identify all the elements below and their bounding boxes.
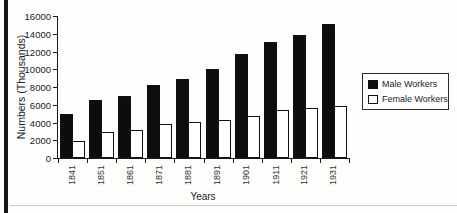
x-axis-tick-10 bbox=[349, 158, 350, 163]
bar-female-1921 bbox=[305, 108, 318, 158]
bar-group-1921 bbox=[291, 16, 320, 158]
scanned-chart-page: Numbers (Thousands) 02000400060008000100… bbox=[0, 0, 457, 213]
legend-item-female-workers: Female Workers bbox=[368, 94, 444, 104]
bar-female-1861 bbox=[130, 130, 143, 158]
bar-female-1851 bbox=[101, 132, 114, 158]
y-axis-tick-label-8000: 8000 bbox=[30, 82, 51, 93]
bar-group-1841 bbox=[58, 16, 87, 158]
x-axis-label-cell-1931: 1931 bbox=[319, 162, 348, 192]
bar-female-1901 bbox=[247, 116, 260, 158]
x-axis-label-1851: 1851 bbox=[96, 165, 106, 185]
legend-swatch-male bbox=[368, 80, 378, 89]
bar-group-1931 bbox=[320, 16, 349, 158]
x-axis-title: Years bbox=[145, 191, 261, 202]
bar-group-1851 bbox=[87, 16, 116, 158]
x-axis-label-cell-1921: 1921 bbox=[290, 162, 319, 192]
y-axis-tick-label-10000: 10000 bbox=[25, 64, 51, 75]
y-axis-tick-10000 bbox=[53, 69, 58, 70]
y-axis-tick-14000 bbox=[53, 34, 58, 35]
legend-swatch-female bbox=[368, 95, 378, 104]
x-axis-label-1891: 1891 bbox=[212, 165, 222, 185]
x-axis-label-cell-1881: 1881 bbox=[173, 162, 202, 192]
bar-female-1891 bbox=[218, 120, 231, 158]
x-axis-category-labels: 1841185118611871188118911901191119211931 bbox=[57, 162, 348, 192]
x-axis-label-1871: 1871 bbox=[154, 165, 164, 185]
y-axis-tick-4000 bbox=[53, 123, 58, 124]
y-axis-tick-16000 bbox=[53, 16, 58, 17]
x-axis-label-1921: 1921 bbox=[299, 165, 309, 185]
y-axis-tick-label-4000: 4000 bbox=[30, 117, 51, 128]
x-axis-label-1841: 1841 bbox=[67, 165, 77, 185]
y-axis-tick-label-12000: 12000 bbox=[25, 46, 51, 57]
bar-group-1861 bbox=[116, 16, 145, 158]
y-axis-tick-label-2000: 2000 bbox=[30, 135, 51, 146]
y-axis-tick-label-6000: 6000 bbox=[30, 99, 51, 110]
bar-group-1901 bbox=[233, 16, 262, 158]
y-axis-tick-12000 bbox=[53, 52, 58, 53]
y-axis-tick-8000 bbox=[53, 87, 58, 88]
y-axis-tick-label-14000: 14000 bbox=[25, 28, 51, 39]
legend-item-male-workers: Male Workers bbox=[368, 79, 444, 89]
x-axis-label-cell-1861: 1861 bbox=[115, 162, 144, 192]
page-divider-line bbox=[10, 205, 457, 206]
bar-female-1871 bbox=[159, 124, 172, 158]
bar-group-1891 bbox=[203, 16, 232, 158]
legend-label-male: Male Workers bbox=[382, 79, 437, 89]
y-axis-tick-label-0: 0 bbox=[46, 153, 51, 164]
legend: Male WorkersFemale Workers bbox=[362, 73, 449, 110]
x-axis-label-cell-1851: 1851 bbox=[86, 162, 115, 192]
x-axis-label-cell-1841: 1841 bbox=[57, 162, 86, 192]
bar-group-1911 bbox=[262, 16, 291, 158]
bar-female-1911 bbox=[276, 110, 289, 158]
x-axis-label-cell-1911: 1911 bbox=[261, 162, 290, 192]
x-axis-label-cell-1891: 1891 bbox=[202, 162, 231, 192]
legend-label-female: Female Workers bbox=[382, 94, 448, 104]
x-axis-label-1911: 1911 bbox=[270, 165, 280, 184]
x-axis-label-1861: 1861 bbox=[125, 165, 135, 185]
bar-group-1881 bbox=[174, 16, 203, 158]
bar-female-1881 bbox=[188, 122, 201, 158]
x-axis-label-1931: 1931 bbox=[328, 165, 338, 185]
x-axis-label-1901: 1901 bbox=[241, 165, 251, 185]
x-axis-label-1881: 1881 bbox=[183, 165, 193, 185]
bar-female-1931 bbox=[334, 106, 347, 158]
plot-area: 0200040006000800010000120001400016000 bbox=[57, 16, 349, 159]
x-axis-label-cell-1871: 1871 bbox=[144, 162, 173, 192]
y-axis-tick-2000 bbox=[53, 140, 58, 141]
y-axis-tick-6000 bbox=[53, 105, 58, 106]
x-axis-label-cell-1901: 1901 bbox=[232, 162, 261, 192]
y-axis-tick-label-16000: 16000 bbox=[25, 11, 51, 22]
bar-groups bbox=[58, 16, 349, 158]
bar-female-1841 bbox=[72, 141, 85, 158]
page-left-border bbox=[4, 0, 8, 213]
bar-group-1871 bbox=[145, 16, 174, 158]
